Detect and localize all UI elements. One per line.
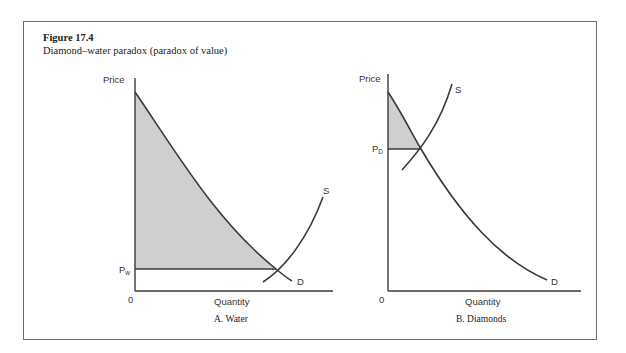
consumer-surplus-water: [135, 92, 276, 269]
origin-label-water: 0: [128, 294, 133, 305]
diagram-canvas: Price Pw 0 Quantity D S A. Water Price P…: [0, 0, 626, 353]
price-axis-label-diamonds: Price: [359, 73, 381, 84]
supply-label-water: S: [323, 185, 329, 196]
panel-water: Price Pw 0 Quantity D S A. Water: [103, 74, 333, 324]
origin-label-diamonds: 0: [379, 294, 384, 305]
supply-label-diamonds: S: [455, 84, 461, 95]
quantity-axis-label-diamonds: Quantity: [465, 296, 501, 307]
caption-water: A. Water: [214, 314, 249, 324]
demand-label-diamonds: D: [551, 276, 558, 287]
pw-label: Pw: [119, 264, 130, 276]
price-axis-label-water: Price: [103, 74, 125, 85]
quantity-axis-label-water: Quantity: [214, 296, 250, 307]
demand-label-water: D: [297, 276, 304, 287]
panel-diamonds: Price PD 0 Quantity D S B. Diamonds: [359, 73, 581, 324]
demand-curve-diamonds: [388, 92, 547, 280]
caption-diamonds: B. Diamonds: [456, 314, 506, 324]
pd-label: PD: [372, 143, 383, 155]
